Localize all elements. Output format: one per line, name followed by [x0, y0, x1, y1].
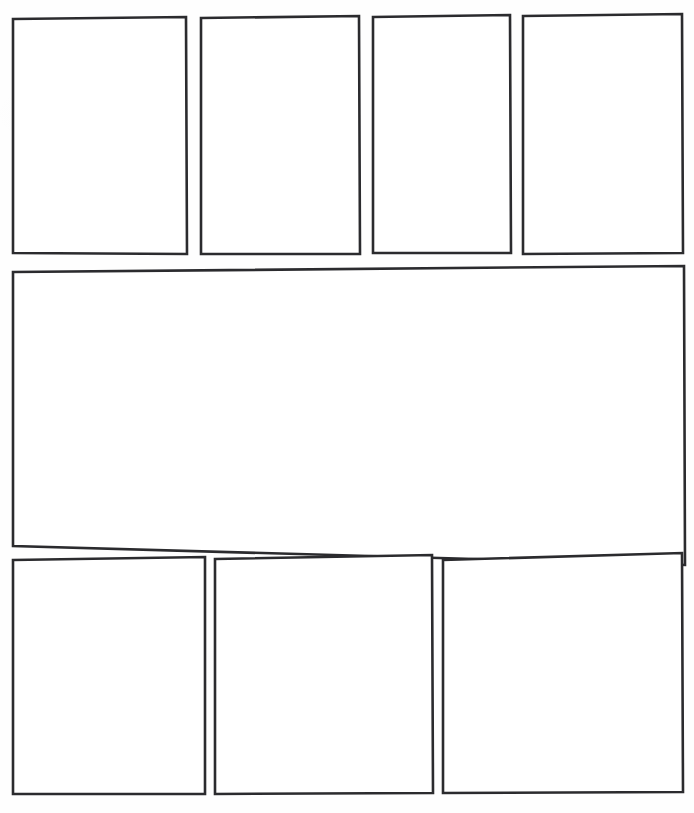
panel-8-outline: [443, 553, 683, 793]
comic-page: [0, 0, 694, 813]
comic-panel-8[interactable]: [0, 0, 694, 813]
